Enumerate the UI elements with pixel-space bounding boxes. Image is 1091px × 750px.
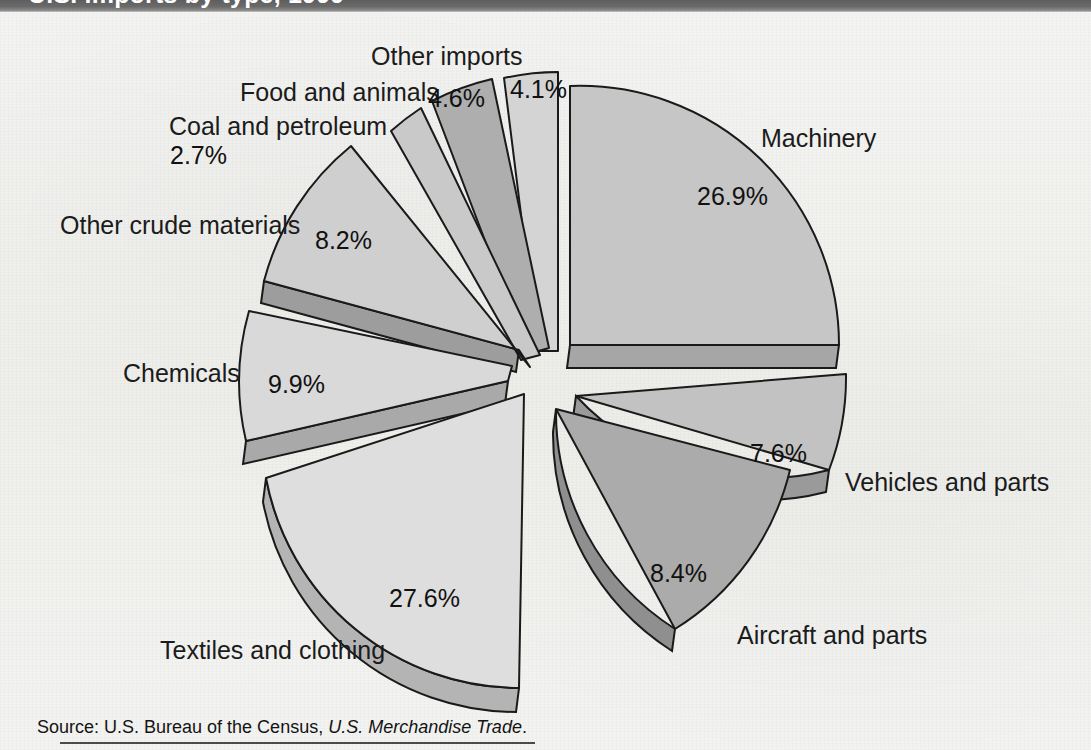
source-publication: U.S. Merchandise Trade (328, 717, 522, 737)
value-food-and-animals: 4.6% (428, 86, 485, 111)
label-food-and-animals: Food and animals (240, 80, 439, 105)
source-suffix: . (522, 717, 527, 737)
value-other-crude-materials: 8.2% (315, 228, 372, 253)
value-coal-and-petroleum: 2.7% (170, 143, 227, 168)
value-textiles-and-clothing: 27.6% (389, 586, 460, 611)
value-machinery: 26.9% (697, 184, 768, 209)
label-textiles-and-clothing: Textiles and clothing (160, 638, 385, 663)
value-vehicles-and-parts: 7.6% (750, 441, 807, 466)
slice-side-machinery (567, 345, 839, 368)
pie-slice-tops (239, 72, 846, 688)
label-vehicles-and-parts: Vehicles and parts (845, 470, 1049, 495)
value-other-imports: 4.1% (510, 77, 567, 102)
value-chemicals: 9.9% (268, 372, 325, 397)
source-note: Source: U.S. Bureau of the Census, U.S. … (37, 717, 737, 747)
label-aircraft-and-parts: Aircraft and parts (737, 623, 927, 648)
source-prefix: Source: U.S. Bureau of the Census, (37, 717, 328, 737)
label-other-crude-materials: Other crude materials (60, 213, 300, 238)
source-rule (60, 742, 535, 744)
value-aircraft-and-parts: 8.4% (650, 561, 707, 586)
label-machinery: Machinery (761, 126, 876, 151)
label-coal-and-petroleum: Coal and petroleum (169, 114, 387, 139)
label-chemicals: Chemicals (123, 361, 240, 386)
label-other-imports: Other imports (371, 44, 522, 69)
